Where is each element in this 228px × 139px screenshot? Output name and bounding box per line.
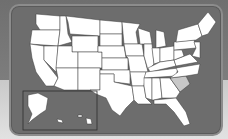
- us-map: [11, 6, 221, 134]
- state-north-dakota[interactable]: [100, 20, 122, 34]
- state-arkansas[interactable]: [130, 72, 146, 86]
- state-michigan[interactable]: [156, 30, 166, 48]
- state-colorado[interactable]: [78, 52, 102, 68]
- state-hawaii-island-2[interactable]: [86, 118, 92, 124]
- state-new-york[interactable]: [176, 24, 202, 42]
- state-montana[interactable]: [66, 16, 100, 36]
- map-panel: [9, 4, 223, 136]
- state-oregon[interactable]: [30, 30, 60, 46]
- state-florida[interactable]: [154, 98, 190, 126]
- state-hawaii-island-3[interactable]: [78, 115, 82, 117]
- state-new-mexico[interactable]: [78, 68, 100, 90]
- state-hawaii-island-1[interactable]: [57, 119, 63, 123]
- state-kansas[interactable]: [102, 58, 128, 70]
- state-minnesota[interactable]: [122, 22, 140, 44]
- state-ohio[interactable]: [160, 46, 174, 62]
- state-new-england[interactable]: [198, 12, 216, 36]
- state-south-dakota[interactable]: [100, 34, 122, 46]
- state-alaska[interactable]: [28, 93, 48, 124]
- contiguous-states: [30, 12, 216, 126]
- state-arizona[interactable]: [54, 68, 78, 90]
- state-wisconsin[interactable]: [138, 28, 152, 44]
- state-wyoming[interactable]: [72, 36, 98, 52]
- state-nebraska[interactable]: [98, 46, 126, 58]
- state-washington[interactable]: [36, 14, 60, 30]
- state-iowa[interactable]: [124, 44, 144, 56]
